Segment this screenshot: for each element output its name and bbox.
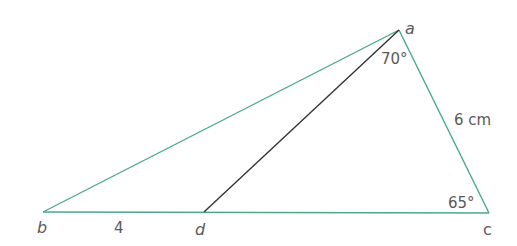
side-bc xyxy=(43,212,489,213)
vertex-label-c: c xyxy=(483,220,492,239)
triangle-diagram: a b c d 70° 65° 6 cm 4 xyxy=(0,0,517,246)
vertex-label-a: a xyxy=(405,19,415,38)
angle-a-label: 70° xyxy=(381,50,408,68)
side-ac-length-label: 6 cm xyxy=(454,111,491,129)
angle-c-label: 65° xyxy=(448,194,475,212)
vertex-label-d: d xyxy=(195,220,206,239)
segment-ad xyxy=(204,30,399,212)
vertex-label-b: b xyxy=(37,218,47,237)
side-ab xyxy=(43,30,399,212)
segment-bd-length-label: 4 xyxy=(114,219,124,237)
